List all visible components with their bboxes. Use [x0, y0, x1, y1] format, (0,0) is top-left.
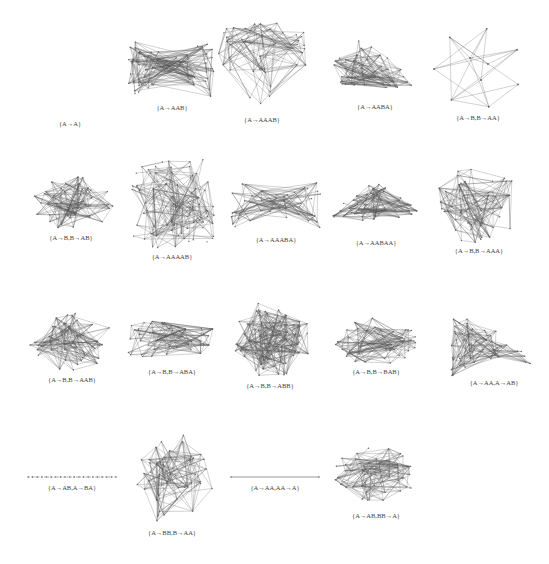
- graph-label: {A→B,B→AA}: [456, 114, 500, 121]
- network-graph: [0, 0, 549, 564]
- graph-label: {A→AABA}: [357, 103, 393, 110]
- network-graph: [0, 0, 549, 564]
- graph-label: {A→B,B→AAA}: [455, 247, 503, 254]
- graph-label: {A→AA,AA→A}: [250, 484, 299, 491]
- network-graph: [0, 0, 549, 564]
- graph-label: {A→AAAAB}: [152, 253, 193, 260]
- graph-label: {A→AB,A→BA}: [48, 484, 96, 491]
- graph-label: {A→BB,B→AA}: [148, 529, 196, 536]
- network-graph: [0, 0, 549, 564]
- graph-label: {A→B,B→ABA}: [148, 368, 196, 375]
- graph-label: {A→B,B→AB}: [49, 234, 92, 241]
- graph-label: {A→AABAA}: [356, 239, 397, 246]
- network-graph: [0, 0, 549, 564]
- graph-label: {A→B,B→ABB}: [246, 382, 294, 389]
- network-graph: [0, 0, 549, 564]
- network-graph: [0, 0, 549, 564]
- graph-label: {A→A}: [59, 120, 81, 127]
- network-graph: [0, 0, 549, 564]
- graph-label: {A→AB,BB→A}: [352, 512, 400, 519]
- graph-label: {A→AAAB}: [244, 116, 280, 123]
- network-graph: [0, 0, 549, 564]
- network-graph: [0, 0, 549, 564]
- graph-label: {A→B,B→AAB}: [48, 376, 96, 383]
- network-graph: [0, 0, 549, 564]
- graph-label: {A→B,B→BAB}: [352, 368, 400, 375]
- network-graph: [0, 0, 549, 564]
- network-graph: [0, 0, 549, 564]
- network-graph: [0, 0, 549, 564]
- network-graph: [0, 0, 549, 564]
- graph-label: {A→AAABA}: [256, 236, 297, 243]
- network-graph: [0, 0, 549, 564]
- graph-label: {A→AAB}: [156, 104, 187, 111]
- network-graph: [0, 0, 549, 564]
- network-graph: [0, 0, 549, 564]
- network-graph: [0, 0, 549, 564]
- graph-label: {A→AA,A→AB}: [470, 379, 519, 386]
